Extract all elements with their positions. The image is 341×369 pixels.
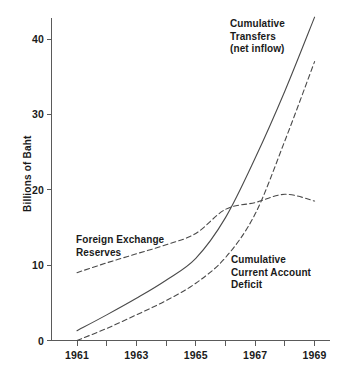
series-label-line: (net inflow) bbox=[230, 43, 285, 56]
series-label-line: Reserves bbox=[76, 247, 164, 260]
series-label-cumulative-transfers: Cumulative Transfers (net inflow) bbox=[230, 18, 285, 56]
x-axis-ticks bbox=[77, 341, 315, 346]
x-axis-tick-label: 1965 bbox=[180, 349, 212, 361]
chart-figure: Billions of Baht 403020100 1961196319651… bbox=[0, 0, 341, 369]
series-lines bbox=[77, 17, 315, 340]
y-axis-tick-label: 40 bbox=[18, 33, 44, 45]
y-axis-tick-label: 30 bbox=[18, 108, 44, 120]
y-axis-tick-label: 0 bbox=[18, 335, 44, 347]
series-label-line: Deficit bbox=[231, 279, 311, 292]
series-label-line: Foreign Exchange bbox=[76, 234, 164, 247]
y-axis-tick-label: 20 bbox=[18, 184, 44, 196]
x-axis-tick-label: 1963 bbox=[120, 349, 152, 361]
axes-group bbox=[52, 18, 331, 341]
series-label-line: Cumulative bbox=[230, 18, 285, 31]
y-axis-title: Billions of Baht bbox=[22, 135, 33, 212]
series-label-line: Current Account bbox=[231, 267, 311, 280]
series-label-line: Transfers bbox=[230, 31, 285, 44]
x-axis-tick-label: 1967 bbox=[239, 349, 271, 361]
y-axis-ticks bbox=[47, 39, 52, 341]
y-axis-tick-label: 10 bbox=[18, 259, 44, 271]
x-axis-tick-label: 1961 bbox=[61, 349, 93, 361]
series-label-line: Cumulative bbox=[231, 254, 311, 267]
series-label-foreign-exchange-reserves: Foreign Exchange Reserves bbox=[76, 234, 164, 259]
chart-plot-area bbox=[0, 0, 341, 369]
x-axis-tick-label: 1969 bbox=[299, 349, 331, 361]
series-label-cumulative-current-account-deficit: Cumulative Current Account Deficit bbox=[231, 254, 311, 292]
series-path bbox=[77, 62, 315, 341]
